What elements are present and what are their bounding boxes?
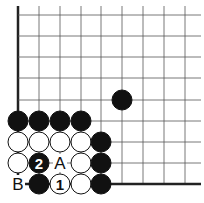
black-stone [91, 153, 111, 173]
white-stone [8, 153, 28, 173]
black-stone [8, 111, 28, 131]
point-label-b: B [12, 175, 23, 194]
white-stone [29, 132, 49, 152]
black-stone [50, 111, 70, 131]
white-stone [71, 132, 91, 152]
point-label-a: A [54, 154, 66, 173]
black-stone [112, 90, 132, 110]
move-number-label: 1 [56, 176, 64, 193]
black-stone [91, 174, 111, 194]
black-stone [71, 111, 91, 131]
black-stone [29, 111, 49, 131]
white-stone [71, 153, 91, 173]
black-stone [91, 132, 111, 152]
white-stone [50, 132, 70, 152]
move-number-label: 2 [35, 155, 43, 172]
go-board: 21 AB [0, 0, 204, 203]
white-stone [8, 132, 28, 152]
white-stone [71, 174, 91, 194]
black-stone [29, 174, 49, 194]
